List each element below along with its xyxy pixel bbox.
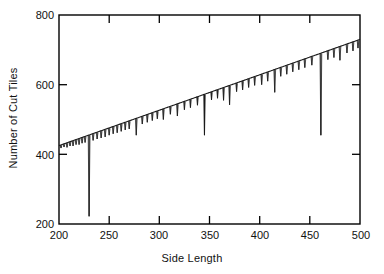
x-tick-label-450: 450 [290,229,330,241]
x-tick-label-300: 300 [139,229,179,241]
secondary-tick-marks [109,15,360,154]
chart-figure: Number of Cut Tiles Side Length 800 600 … [0,0,384,274]
y-axis-label: Number of Cut Tiles [7,58,19,178]
x-tick-label-500: 500 [341,229,381,241]
x-tick-marks [109,216,310,224]
x-tick-label-400: 400 [240,229,280,241]
y-tick-label-800: 800 [20,9,54,21]
y-tick-label-400: 400 [20,149,54,161]
x-tick-label-200: 200 [39,229,79,241]
x-tick-label-350: 350 [190,229,230,241]
x-tick-label-250: 250 [89,229,129,241]
axes-frame [59,15,360,224]
x-axis-label: Side Length [0,252,384,264]
data-series-line [59,39,360,216]
y-tick-label-600: 600 [20,79,54,91]
